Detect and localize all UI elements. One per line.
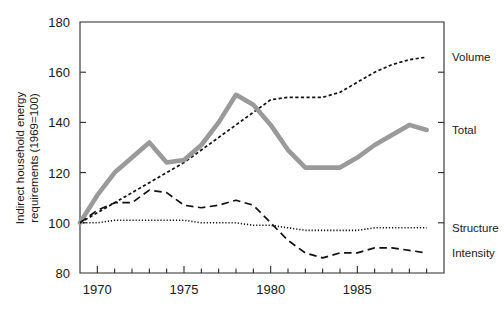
series-label-intensity: Intensity — [452, 247, 495, 259]
y-tick-label: 100 — [48, 216, 70, 231]
series-label-total: Total — [452, 124, 476, 136]
y-axis-title-line1: Indirect household energy — [14, 92, 26, 225]
y-axis-title: Indirect household energy requirements (… — [14, 92, 40, 225]
y-tick-label: 180 — [48, 15, 70, 30]
chart-axes — [80, 22, 444, 273]
axis-frame — [80, 22, 444, 273]
chart-series-lines — [80, 57, 427, 258]
y-axis-tick-labels: 80100120140160180 — [48, 15, 70, 281]
series-line-total — [80, 95, 427, 223]
chart-series-labels: VolumeTotalStructureIntensity — [452, 51, 499, 259]
y-tick-label: 140 — [48, 115, 70, 130]
series-label-volume: Volume — [452, 51, 490, 63]
chart-figure: Indirect household energy requirements (… — [0, 0, 504, 311]
series-line-volume — [80, 57, 427, 223]
x-tick-label: 1985 — [343, 282, 372, 297]
x-tick-label: 1980 — [256, 282, 285, 297]
x-axis-tick-labels: 1970197519801985 — [83, 282, 372, 297]
y-tick-label: 120 — [48, 166, 70, 181]
y-axis-title-line2: requirements (1969=100) — [28, 93, 40, 223]
series-line-structure — [80, 220, 427, 230]
chart-canvas: Indirect household energy requirements (… — [0, 0, 504, 311]
series-label-structure: Structure — [452, 222, 499, 234]
series-line-intensity — [80, 190, 427, 258]
x-tick-label: 1970 — [83, 282, 112, 297]
x-tick-label: 1975 — [170, 282, 199, 297]
y-tick-label: 80 — [56, 266, 70, 281]
y-tick-label: 160 — [48, 65, 70, 80]
chart-tick-marks — [80, 72, 444, 273]
